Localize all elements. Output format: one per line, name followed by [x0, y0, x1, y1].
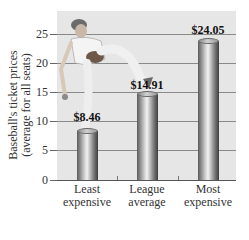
bar-least-expensive — [77, 131, 98, 180]
x-tick — [117, 176, 118, 180]
x-axis — [57, 180, 236, 181]
x-label-most-expensive: Most expensive — [173, 183, 243, 209]
y-tick-label: 15 — [28, 86, 48, 98]
y-tick-label: 10 — [28, 115, 48, 127]
y-tick-label: 0 — [28, 174, 48, 186]
bar-cap — [198, 38, 219, 44]
y-tick-label: 5 — [28, 144, 48, 156]
value-label-least-expensive: $8.46 — [57, 111, 117, 123]
bar-league-average — [137, 94, 158, 180]
x-label-line: average — [112, 196, 182, 209]
value-label-league-average: $14.91 — [117, 79, 177, 91]
bar-most-expensive — [198, 41, 219, 180]
y-tick-label: 25 — [28, 28, 48, 40]
x-label-league-average: League average — [112, 183, 182, 209]
y-tick — [50, 121, 57, 122]
y-tick — [50, 63, 57, 64]
y-tick — [50, 34, 57, 35]
y-tick-label: 20 — [28, 57, 48, 69]
x-label-line: expensive — [173, 196, 243, 209]
y-tick — [50, 92, 57, 93]
value-label-most-expensive: $24.05 — [178, 24, 238, 36]
bar-cap — [77, 128, 98, 134]
x-tick — [178, 176, 179, 180]
y-tick — [50, 150, 57, 151]
y-tick — [50, 180, 57, 181]
